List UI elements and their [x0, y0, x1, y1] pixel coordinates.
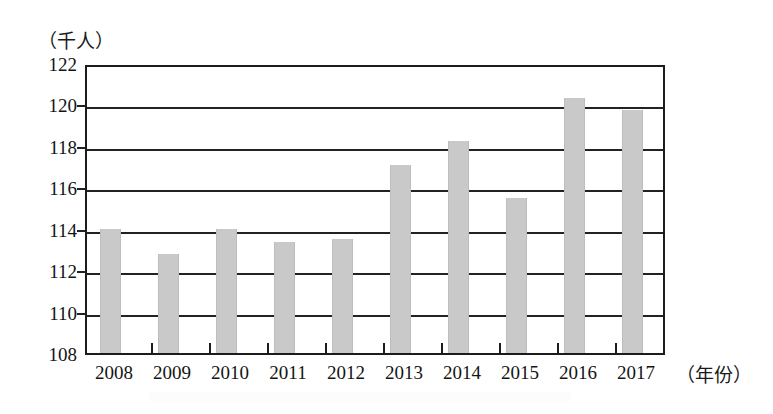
x-axis-unit-label: （年份）: [676, 360, 752, 387]
y-axis-tick-label: 118: [35, 138, 77, 157]
x-axis-tick-label: 2015: [490, 362, 550, 384]
x-axis-tick-label: 2014: [432, 362, 492, 384]
bar: [622, 110, 643, 353]
x-axis-tick-label: 2013: [374, 362, 434, 384]
x-axis-tickmark: [209, 343, 211, 354]
y-axis-tickmark: [77, 230, 85, 232]
y-axis-tickmark: [77, 188, 85, 190]
x-axis-tickmark: [267, 343, 269, 354]
x-axis-tickmark: [151, 343, 153, 354]
bar: [448, 141, 469, 353]
x-axis-tick-label: 2010: [200, 362, 260, 384]
plot-area: [85, 65, 665, 355]
bar: [564, 98, 585, 353]
y-axis-tickmark: [77, 271, 85, 273]
scan-artifact: [150, 392, 570, 402]
x-axis-tickmark: [383, 343, 385, 354]
y-axis-tickmark: [77, 313, 85, 315]
bar: [332, 239, 353, 353]
y-axis-ticks: 122120118116114112110108: [33, 0, 77, 414]
x-axis-tickmark: [499, 343, 501, 354]
bar: [100, 229, 121, 353]
y-axis-tick-label: 122: [35, 55, 77, 74]
y-axis-tick-label: 108: [35, 345, 77, 364]
x-axis-tickmark: [441, 343, 443, 354]
x-axis-tick-label: 2009: [142, 362, 202, 384]
x-axis-tick-label: 2017: [606, 362, 666, 384]
y-axis-tick-label: 110: [35, 304, 77, 323]
y-axis-tick-label: 120: [35, 96, 77, 115]
y-axis-tick-label: 112: [35, 262, 77, 281]
x-axis-tick-label: 2008: [84, 362, 144, 384]
y-axis-tick-label: 114: [35, 221, 77, 240]
x-axis-tickmark: [557, 343, 559, 354]
x-axis-tickmark: [325, 343, 327, 354]
bar: [158, 254, 179, 353]
y-axis-tick-label: 116: [35, 179, 77, 198]
bar-chart: （千人） 122120118116114112110108 2008200920…: [0, 0, 773, 414]
bar: [506, 198, 527, 353]
x-axis-tick-label: 2016: [548, 362, 608, 384]
x-axis-labels: 2008200920102011201220132014201520162017: [85, 362, 665, 388]
bar: [274, 242, 295, 353]
bar: [390, 165, 411, 354]
y-axis-tickmark: [77, 147, 85, 149]
x-axis-tick-label: 2011: [258, 362, 318, 384]
x-axis-tick-label: 2012: [316, 362, 376, 384]
y-axis-tickmark: [77, 105, 85, 107]
bar: [216, 229, 237, 353]
x-axis-tickmark: [615, 343, 617, 354]
bars-layer: [87, 67, 663, 353]
